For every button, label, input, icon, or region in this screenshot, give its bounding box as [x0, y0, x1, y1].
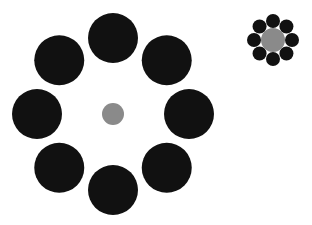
surround-circle: [34, 143, 84, 193]
large-surround-group: [12, 13, 214, 215]
surround-circle: [253, 20, 267, 34]
surround-circle: [253, 46, 267, 60]
surround-circle: [164, 89, 214, 139]
surround-circle: [142, 143, 192, 193]
surround-circle: [285, 33, 299, 47]
surround-circle: [247, 33, 261, 47]
surround-circle: [88, 165, 138, 215]
surround-circle: [279, 46, 293, 60]
surround-circle: [142, 35, 192, 85]
target-circle: [102, 103, 124, 125]
surround-circle: [12, 89, 62, 139]
surround-circle: [34, 35, 84, 85]
surround-circle: [266, 52, 280, 66]
ebbinghaus-figure: [0, 0, 312, 225]
target-circle: [261, 28, 285, 52]
surround-circle: [266, 14, 280, 28]
small-surround-group: [247, 14, 299, 66]
surround-circle: [279, 20, 293, 34]
surround-circle: [88, 13, 138, 63]
